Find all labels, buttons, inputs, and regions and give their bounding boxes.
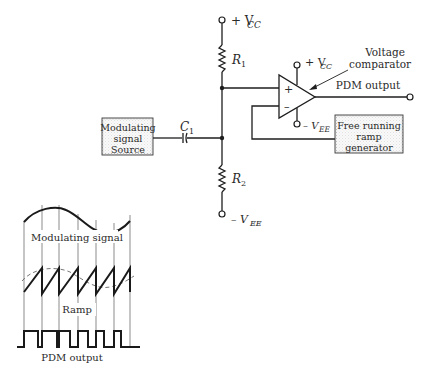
c1-sub: 1 — [189, 127, 194, 136]
r2-sub: 2 — [241, 179, 246, 188]
comp-vcc-sub: CC — [320, 62, 332, 71]
ramp-label: Ramp — [62, 304, 92, 315]
vee-terminal-bottom — [219, 211, 225, 217]
plus-input-label: + — [284, 83, 293, 96]
svg-text:Source: Source — [111, 144, 145, 155]
modulating-source-block: Modulating signal Source — [100, 118, 155, 155]
vcc-sub-top: CC — [247, 20, 261, 30]
resistor-r1 — [219, 45, 225, 72]
r1-sub: 1 — [241, 60, 246, 69]
pdm-output-label: PDM output — [336, 79, 401, 91]
vee-label-bottom: – V — [231, 213, 249, 226]
modulating-signal-label: Modulating signal — [31, 232, 123, 243]
c1-label: C — [180, 120, 189, 134]
voltage-comparator: + – + V CC – V EE — [279, 56, 332, 134]
svg-text:Modulating: Modulating — [100, 122, 155, 133]
comparator-label-2: comparator — [349, 58, 412, 70]
pdm-diagram: + V CC R 1 R 2 – V EE Modulating signal … — [0, 0, 426, 379]
comp-vee-label: – V — [303, 120, 320, 131]
pdm-output-terminal — [407, 94, 413, 100]
ramp-generator-block: Free running ramp generator — [335, 115, 403, 153]
vcc-terminal-top — [219, 17, 225, 23]
minus-input-label: – — [284, 100, 290, 113]
svg-text:Free running: Free running — [337, 120, 401, 131]
comp-vee-sub: EE — [318, 125, 330, 134]
capacitor-c1 — [183, 133, 187, 143]
bias-network: + V CC R 1 R 2 – V EE — [219, 14, 293, 228]
r2-label: R — [231, 172, 241, 186]
pdm-output-wave — [17, 331, 140, 347]
vee-sub-bottom: EE — [249, 219, 262, 228]
r1-label: R — [231, 53, 241, 67]
waveforms: Modulating signal Ramp PDM output — [17, 205, 140, 363]
pdm-output-wave-label: PDM output — [41, 352, 103, 363]
ramp-wave — [24, 268, 130, 294]
svg-text:ramp: ramp — [356, 131, 381, 142]
svg-text:generator: generator — [345, 142, 393, 153]
resistor-r2 — [219, 165, 225, 192]
svg-text:signal: signal — [114, 133, 143, 144]
comparator-label-1: Voltage — [364, 46, 405, 58]
